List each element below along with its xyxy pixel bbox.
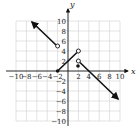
- svg-text:6: 6: [62, 38, 67, 46]
- svg-text:−8: −8: [21, 73, 31, 81]
- closed-endpoint-segment: [56, 69, 60, 73]
- svg-text:−2: −2: [56, 78, 66, 86]
- svg-text:−6: −6: [56, 98, 67, 106]
- svg-text:8: 8: [62, 28, 66, 36]
- svg-text:10: 10: [116, 73, 125, 81]
- svg-text:4: 4: [62, 48, 67, 56]
- svg-text:10: 10: [57, 18, 66, 26]
- x-tick-labels: −10 −8 −6 −4 −2 2 4 6 8 10: [9, 73, 125, 81]
- svg-text:4: 4: [87, 73, 92, 81]
- svg-text:−6: −6: [32, 73, 43, 81]
- y-axis-label: y: [69, 0, 75, 9]
- svg-text:2: 2: [76, 73, 80, 81]
- isolated-closed-point: [76, 64, 80, 68]
- piecewise-graph: x y −10 −8 −6 −4 −2 2 4 6 8 10 10 8 6 4 …: [0, 0, 140, 128]
- segment-middle: [58, 53, 77, 72]
- svg-text:−8: −8: [56, 108, 66, 116]
- ray-left: [32, 22, 56, 45]
- open-endpoint-segment: [76, 49, 80, 53]
- svg-text:−10: −10: [51, 118, 66, 126]
- open-endpoint-right-ray: [76, 59, 80, 63]
- svg-text:−4: −4: [42, 73, 53, 81]
- open-endpoint-left-ray: [56, 44, 60, 48]
- svg-text:−4: −4: [56, 88, 67, 96]
- x-axis-label: x: [131, 67, 136, 76]
- svg-text:8: 8: [107, 73, 111, 81]
